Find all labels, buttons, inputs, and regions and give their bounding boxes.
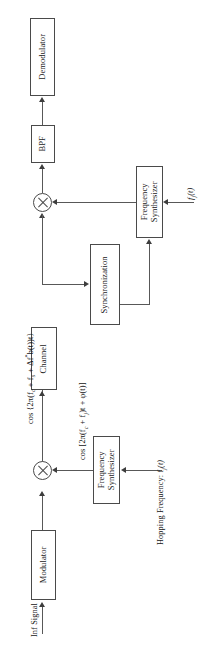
hopping-frequency-tail: (t) — [156, 460, 165, 468]
line-channel-trunk-upper — [42, 215, 43, 285]
line-tap-to-synchronization — [42, 284, 85, 285]
block-channel-label: Channel — [39, 344, 49, 373]
arrowhead-txmixer-to-channel — [39, 391, 45, 396]
line-fj-input-to-rxsynth — [168, 202, 194, 203]
block-synchronization-label: Synchronization — [100, 256, 110, 313]
arrowhead-rxsynth-to-rxmixer — [52, 199, 57, 205]
hopping-frequency-sub: j — [161, 468, 167, 470]
fj-input-sub: j — [191, 196, 197, 198]
hopping-frequency-text: Hopping Frequency: f — [156, 470, 165, 545]
fj-input-tail: (t) — [186, 188, 195, 196]
channel-expr-sub1: c — [30, 389, 36, 392]
channel-expr-mid2: + Δf — [26, 357, 35, 374]
mixer-expr-mid1: + f — [78, 415, 87, 427]
block-demodulator[interactable]: Demodulator — [30, 18, 55, 96]
fhss-block-diagram: Demodulator BPF FrequencySynthesizer fj(… — [0, 0, 201, 657]
line-txsynth-to-txmixer — [57, 470, 93, 471]
block-demodulator-label: Demodulator — [38, 34, 48, 80]
label-channel-expression: cos {2π(fc + fs + Δf*b(t))t} — [24, 333, 36, 424]
label-mixer-expression: cos [2π(fc + fj)t + φ(t)] — [78, 383, 89, 461]
line-rxsynth-to-rxmixer — [57, 202, 136, 203]
arrowhead-txsynth-to-txmixer — [52, 467, 57, 473]
fs-rx-line1: Frequency — [139, 184, 149, 221]
block-bpf[interactable]: BPF — [31, 125, 55, 163]
arrowhead-bpf-to-demodulator — [39, 97, 45, 102]
channel-expr-prefix: cos {2π(f — [26, 392, 35, 424]
block-modulator-label: Modulator — [39, 547, 49, 584]
fs-tx-line1: Frequency — [96, 452, 106, 489]
label-fj-input: fj(t) — [186, 188, 197, 200]
label-hopping-frequency: Hopping Frequency: fj(t) — [156, 460, 167, 545]
mixer-expr-sub2: j — [83, 413, 89, 415]
channel-expr-sub2: s — [30, 375, 36, 377]
block-frequency-synthesizer-transmit[interactable]: FrequencySynthesizer — [93, 436, 120, 504]
block-modulator[interactable]: Modulator — [31, 530, 56, 600]
block-frequency-synthesizer-transmit-label: FrequencySynthesizer — [97, 450, 117, 491]
arrowhead-rxmixer-to-bpf — [39, 164, 45, 169]
line-rxmixer-to-bpf — [42, 168, 43, 193]
arrowhead-inf-signal-input — [39, 602, 45, 607]
mixer-expr-prefix: cos [2π(f — [78, 429, 87, 460]
channel-expr-mid1: + f — [26, 377, 35, 389]
line-txmixer-to-channel — [42, 395, 43, 470]
block-frequency-synthesizer-receive[interactable]: FrequencySynthesizer — [136, 166, 163, 238]
arrowhead-tap-to-synchronization — [84, 281, 89, 287]
mixer-receive[interactable] — [33, 193, 52, 212]
arrowhead-sync-to-rxsynth — [146, 239, 152, 244]
block-bpf-label: BPF — [38, 136, 48, 151]
fs-tx-line2: Synthesizer — [106, 450, 116, 491]
line-sync-out-horizontal — [120, 304, 150, 305]
label-inf-signal: Inf Signal — [30, 603, 39, 637]
line-bpf-to-demodulator — [42, 101, 43, 125]
line-inf-signal-input — [42, 606, 43, 634]
channel-expr-sup: * — [24, 354, 30, 357]
line-sync-to-rxsynth — [149, 243, 150, 305]
fs-rx-line2: Synthesizer — [149, 182, 159, 223]
channel-expr-mid3: b(t))t} — [26, 333, 35, 355]
arrowhead-fj-input-to-rxsynth — [163, 199, 168, 205]
mixer-transmit[interactable] — [33, 461, 52, 480]
block-synchronization[interactable]: Synchronization — [90, 244, 120, 325]
block-frequency-synthesizer-receive-label: FrequencySynthesizer — [140, 182, 160, 223]
line-modulator-to-txmixer — [42, 495, 43, 530]
arrowhead-hopping-frequency-input — [121, 467, 126, 473]
arrowhead-modulator-to-txmixer — [39, 491, 45, 496]
mixer-expr-mid2: )t + φ(t)] — [78, 383, 87, 413]
